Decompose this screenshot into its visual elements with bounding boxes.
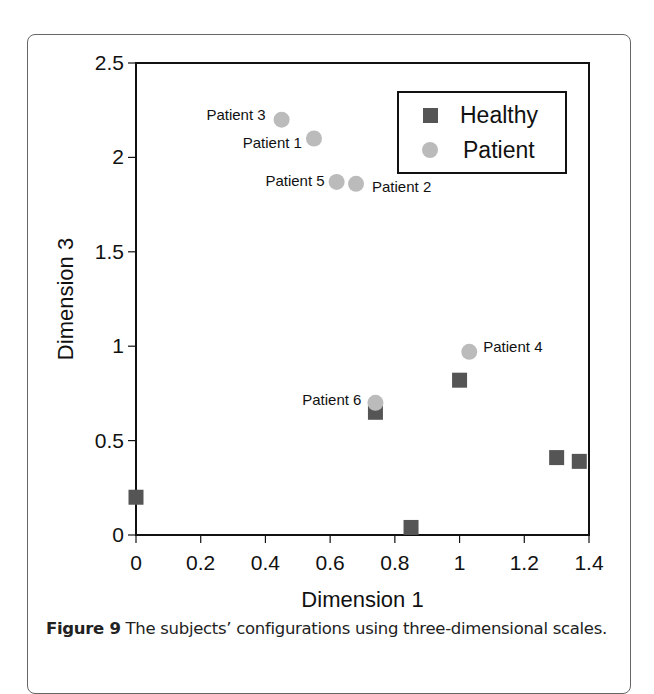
healthy-marker: [572, 454, 587, 469]
x-axis-label: Dimension 1: [301, 587, 423, 612]
healthy-marker: [404, 520, 419, 535]
y-tick-label: 1: [112, 334, 124, 357]
legend-patient-label: Patient: [463, 137, 535, 163]
healthy-marker: [129, 490, 144, 505]
patient-marker: [367, 395, 383, 411]
x-tick-label: 0: [130, 551, 142, 574]
healthy-marker: [549, 450, 564, 465]
x-tick-label: 0.2: [186, 551, 215, 574]
x-tick-label: 0.4: [251, 551, 281, 574]
caption-label: Figure 9: [46, 619, 121, 638]
patient-label: Patient 1: [243, 134, 302, 151]
patient-marker: [329, 174, 345, 190]
patient-marker: [348, 176, 364, 192]
patient-marker: [306, 131, 322, 147]
patient-label: Patient 6: [302, 391, 361, 408]
legend-healthy-icon: [423, 108, 438, 123]
x-tick-label: 1: [454, 551, 466, 574]
y-tick-label: 0: [112, 523, 124, 546]
figure-caption: Figure 9 The subjects’ configurations us…: [46, 617, 626, 641]
patient-label: Patient 3: [206, 106, 265, 123]
patient-label: Patient 2: [372, 178, 431, 195]
patient-marker: [274, 112, 290, 128]
x-tick-label: 0.8: [380, 551, 409, 574]
healthy-marker: [452, 373, 467, 388]
x-tick-label: 1.4: [574, 551, 604, 574]
y-tick-label: 1.5: [95, 240, 124, 263]
patient-label: Patient 4: [483, 338, 542, 355]
y-tick-label: 2.5: [95, 51, 124, 74]
y-axis-label: Dimension 3: [53, 238, 78, 360]
caption-text: The subjects’ configurations using three…: [121, 619, 607, 638]
x-tick-label: 1.2: [510, 551, 539, 574]
legend-patient-icon: [422, 142, 438, 158]
patient-marker: [461, 344, 477, 360]
y-tick-label: 0.5: [95, 429, 124, 452]
x-tick-label: 0.6: [316, 551, 345, 574]
y-tick-label: 2: [112, 145, 124, 168]
legend-healthy-label: Healthy: [460, 102, 538, 128]
patient-label: Patient 5: [265, 172, 324, 189]
